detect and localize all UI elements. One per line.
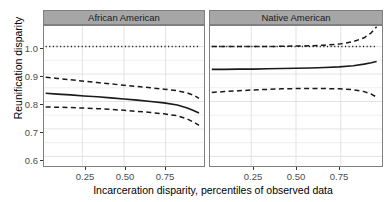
series-upper-confidence-interval <box>212 27 377 47</box>
facet-strip-label: Native American <box>261 12 330 23</box>
facet-strip-native-american: Native American <box>209 10 383 25</box>
x-tick-label-right-0.50: 0.50 <box>281 171 311 182</box>
x-tick-label-right-0.25: 0.25 <box>238 171 268 182</box>
x-tick-label-right-0.75: 0.75 <box>324 171 354 182</box>
panel-african-american <box>43 25 205 167</box>
x-tick-label-left-0.25: 0.25 <box>70 171 100 182</box>
plot-area <box>44 26 204 166</box>
facet-strip-label: African American <box>88 12 160 23</box>
x-tick-mark-right-0.25 <box>253 167 254 170</box>
y-tick-label-0.6: 0.6 <box>12 156 38 165</box>
chart-container: Reunification disparity 1.0 0.9 0.8 0.7 … <box>0 0 384 202</box>
x-tick-mark-left-0.75 <box>165 167 166 170</box>
x-tick-mark-right-0.50 <box>296 167 297 170</box>
series-lower-confidence-interval <box>46 107 199 125</box>
y-tick-label-0.7: 0.7 <box>12 128 38 137</box>
x-tick-mark-right-0.75 <box>339 167 340 170</box>
series-estimate <box>212 61 377 69</box>
x-tick-mark-left-0.50 <box>125 167 126 170</box>
y-tick-label-0.9: 0.9 <box>12 72 38 81</box>
x-tick-label-left-0.75: 0.75 <box>150 171 180 182</box>
x-axis-title: Incarceration disparity, percentiles of … <box>42 184 384 196</box>
y-tick-label-1.0: 1.0 <box>12 44 38 53</box>
plot-area <box>210 26 382 166</box>
y-axis-ticks: 1.0 0.9 0.8 0.7 0.6 <box>0 0 38 202</box>
facet-strip-african-american: African American <box>43 10 205 25</box>
x-tick-label-left-0.50: 0.50 <box>110 171 140 182</box>
y-tick-label-0.8: 0.8 <box>12 100 38 109</box>
panel-native-american <box>209 25 383 167</box>
series-lower-confidence-interval <box>212 89 377 98</box>
x-tick-mark-left-0.25 <box>85 167 86 170</box>
